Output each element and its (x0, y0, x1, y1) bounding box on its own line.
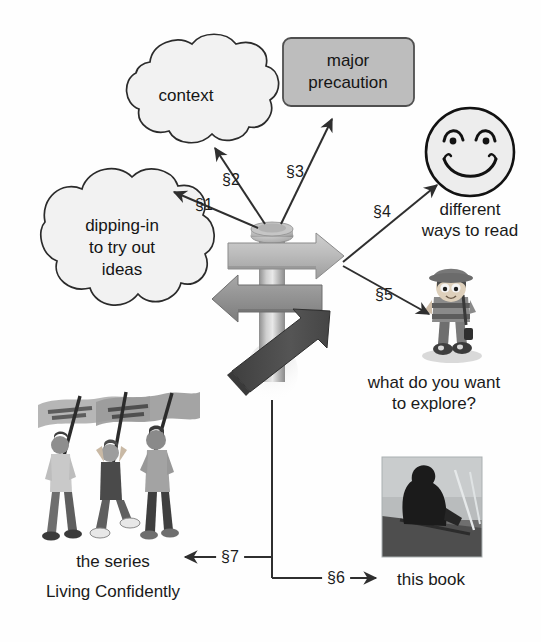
smiley-caption-line-2: ways to read (422, 220, 518, 241)
explorer-caption: what do you want to explore? (368, 372, 500, 415)
diagram-graphics-layer (0, 0, 541, 642)
series-caption-line-1: the series (46, 551, 180, 572)
connector-label-s7: §7 (216, 548, 244, 566)
series-caption: the series Living Confidently (46, 551, 180, 603)
book-caption: this book (397, 569, 465, 590)
smiley-caption-line-1: different (422, 199, 518, 220)
precaution-line-1: major (308, 50, 387, 72)
connector-label-s1: §1 (195, 196, 213, 214)
diagram-canvas: context major precaution dipping-in to t… (0, 0, 541, 642)
connector-label-s2: §2 (222, 171, 240, 189)
book-photo-illustration (382, 457, 482, 557)
context-cloud-label: context (159, 85, 214, 107)
signpost-illustration (212, 222, 344, 402)
explorer-caption-line-1: what do you want (368, 372, 500, 393)
dipping-cloud-label: dipping-in to try out ideas (85, 215, 159, 281)
book-caption-line-1: this book (397, 569, 465, 590)
connector-label-s6: §6 (322, 569, 350, 587)
dipping-line-1: dipping-in (85, 215, 159, 237)
series-illustration (38, 392, 200, 541)
smiley-face-shape (426, 108, 514, 196)
dipping-line-3: ideas (85, 259, 159, 281)
smiley-caption: different ways to read (422, 199, 518, 242)
connector-label-s4: §4 (373, 203, 391, 221)
series-caption-line-2: Living Confidently (46, 581, 180, 602)
dipping-line-2: to try out (85, 237, 159, 259)
precaution-line-2: precaution (308, 72, 387, 94)
explorer-caption-line-2: to explore? (368, 393, 500, 414)
connector-label-s3: §3 (286, 163, 304, 181)
precaution-box-label: major precaution (308, 50, 387, 94)
connector-label-s5: §5 (375, 286, 393, 304)
explorer-illustration (422, 269, 482, 363)
